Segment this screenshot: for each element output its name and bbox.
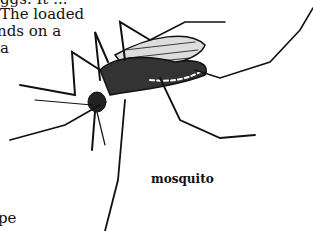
mosquito-illustration (0, 0, 313, 231)
figure-caption: mosquito (151, 172, 214, 186)
